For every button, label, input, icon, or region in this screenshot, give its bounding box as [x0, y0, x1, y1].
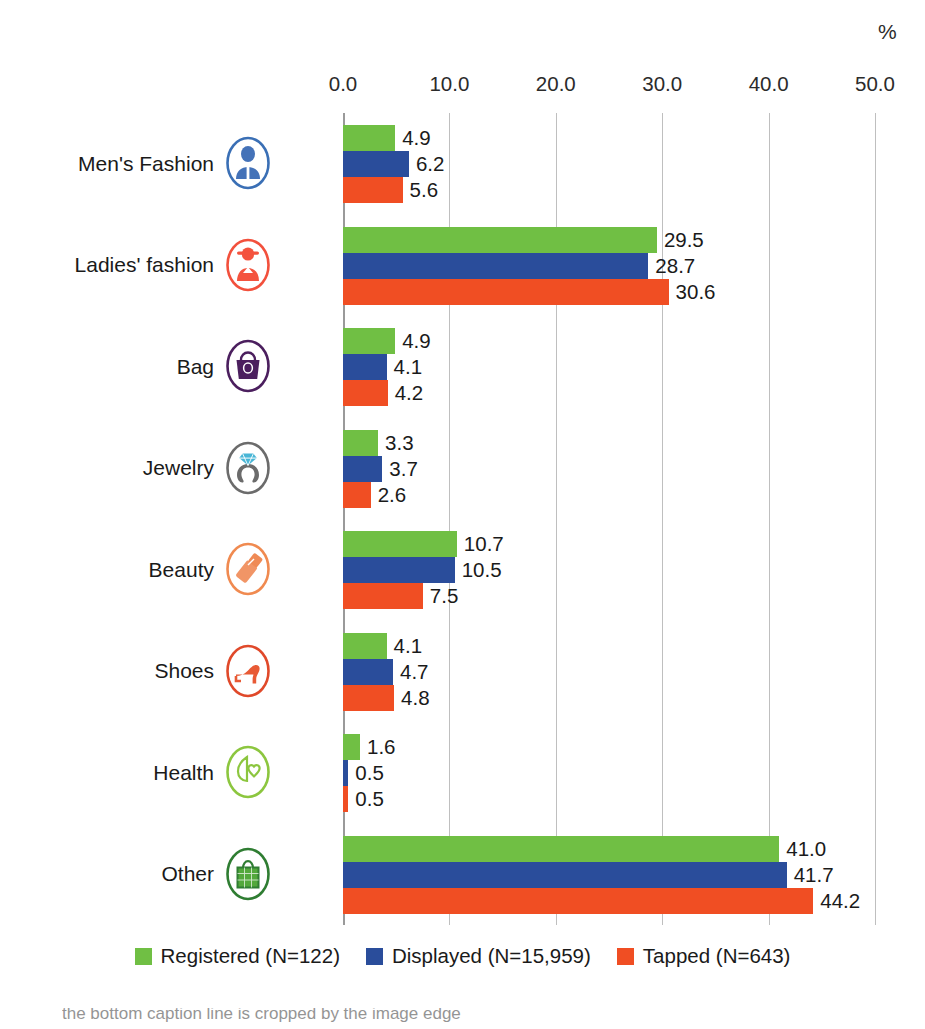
legend-item-displayed[interactable]: Displayed (N=15,959) — [366, 944, 591, 968]
bar-row: 2.6 — [343, 482, 875, 508]
bar-value-label: 3.3 — [378, 430, 414, 454]
bar-value-label: 28.7 — [648, 253, 695, 277]
bar-tapped[interactable] — [343, 177, 403, 203]
bar-row: 5.6 — [343, 177, 875, 203]
bar-value-label: 41.7 — [787, 862, 834, 886]
jewelry-icon — [224, 440, 272, 496]
bar-value-label: 0.5 — [348, 787, 384, 811]
bar-displayed[interactable] — [343, 253, 648, 279]
category-label: Shoes — [154, 660, 214, 681]
bar-row: 29.5 — [343, 227, 875, 253]
legend-item-tapped[interactable]: Tapped (N=643) — [617, 944, 791, 968]
bar-value-label: 5.6 — [403, 178, 439, 202]
plot-area: 4.96.25.629.528.730.64.94.14.23.33.72.61… — [343, 113, 875, 925]
bar-group: 10.710.57.5 — [343, 531, 875, 609]
other-icon — [224, 846, 272, 902]
bar-tapped[interactable] — [343, 279, 669, 305]
x-axis-tick: 10.0 — [429, 72, 469, 96]
shoes-icon — [224, 643, 272, 699]
bar-group: 4.14.74.8 — [343, 633, 875, 711]
bar-registered[interactable] — [343, 734, 360, 760]
ladies-fashion-icon — [224, 237, 272, 293]
bar-registered[interactable] — [343, 328, 395, 354]
category-entry: Men's Fashion — [0, 124, 343, 202]
gridline — [875, 113, 876, 925]
bar-registered[interactable] — [343, 836, 779, 862]
bar-group: 41.041.744.2 — [343, 836, 875, 914]
bar-value-label: 10.5 — [455, 558, 502, 582]
category-axis: Men's Fashion Ladies' fashion Bag Jewelr… — [0, 113, 343, 925]
bar-value-label: 4.9 — [395, 329, 431, 353]
axis-unit-label: % — [878, 20, 897, 44]
category-entry: Shoes — [0, 632, 343, 710]
legend-label: Displayed (N=15,959) — [392, 944, 591, 968]
bar-row: 0.5 — [343, 760, 875, 786]
x-axis-tick: 40.0 — [749, 72, 789, 96]
category-entry: Ladies' fashion — [0, 226, 343, 304]
bar-row: 41.7 — [343, 862, 875, 888]
bar-row: 3.7 — [343, 456, 875, 482]
category-label: Health — [153, 762, 214, 783]
category-entry: Beauty — [0, 530, 343, 608]
bar-row: 44.2 — [343, 888, 875, 914]
category-label: Ladies' fashion — [75, 254, 214, 275]
x-axis-tick: 0.0 — [329, 72, 358, 96]
legend-item-registered[interactable]: Registered (N=122) — [135, 944, 340, 968]
legend-swatch-tapped — [617, 948, 634, 965]
x-axis-tick: 20.0 — [536, 72, 576, 96]
bar-tapped[interactable] — [343, 685, 394, 711]
category-label: Jewelry — [143, 457, 214, 478]
bar-value-label: 41.0 — [779, 836, 826, 860]
bar-value-label: 4.9 — [395, 126, 431, 150]
bar-row: 4.7 — [343, 659, 875, 685]
legend-label: Tapped (N=643) — [643, 944, 791, 968]
bar-value-label: 7.5 — [423, 584, 459, 608]
bar-displayed[interactable] — [343, 659, 393, 685]
bar-row: 6.2 — [343, 151, 875, 177]
bar-displayed[interactable] — [343, 557, 455, 583]
bar-row: 7.5 — [343, 583, 875, 609]
bar-registered[interactable] — [343, 227, 657, 253]
bar-row: 4.8 — [343, 685, 875, 711]
bar-row: 30.6 — [343, 279, 875, 305]
bar-tapped[interactable] — [343, 888, 813, 914]
bar-value-label: 1.6 — [360, 735, 396, 759]
category-entry: Health — [0, 733, 343, 811]
category-label: Beauty — [149, 559, 214, 580]
bar-registered[interactable] — [343, 633, 387, 659]
x-axis-tick: 50.0 — [855, 72, 895, 96]
bar-registered[interactable] — [343, 125, 395, 151]
bar-row: 4.1 — [343, 354, 875, 380]
bar-displayed[interactable] — [343, 354, 387, 380]
bag-icon — [224, 338, 272, 394]
chart-legend: Registered (N=122)Displayed (N=15,959)Ta… — [0, 944, 925, 968]
bar-value-label: 2.6 — [371, 482, 407, 506]
bar-value-label: 4.1 — [387, 355, 423, 379]
bar-tapped[interactable] — [343, 482, 371, 508]
bar-value-label: 4.7 — [393, 659, 429, 683]
health-icon — [224, 744, 272, 800]
legend-swatch-registered — [135, 948, 152, 965]
bar-row: 4.9 — [343, 328, 875, 354]
bar-group: 1.60.50.5 — [343, 734, 875, 812]
bar-tapped[interactable] — [343, 380, 388, 406]
bar-value-label: 4.1 — [387, 633, 423, 657]
beauty-icon — [224, 541, 272, 597]
bar-registered[interactable] — [343, 531, 457, 557]
category-entry: Bag — [0, 327, 343, 405]
bar-registered[interactable] — [343, 430, 378, 456]
bar-value-label: 44.2 — [813, 888, 860, 912]
bar-value-label: 4.8 — [394, 685, 430, 709]
bar-row: 3.3 — [343, 430, 875, 456]
bar-row: 1.6 — [343, 734, 875, 760]
bar-tapped[interactable] — [343, 583, 423, 609]
bar-value-label: 0.5 — [348, 761, 384, 785]
bars-layer: 4.96.25.629.528.730.64.94.14.23.33.72.61… — [343, 113, 875, 925]
bar-displayed[interactable] — [343, 862, 787, 888]
category-label: Men's Fashion — [78, 153, 214, 174]
bar-group: 4.94.14.2 — [343, 328, 875, 406]
bar-displayed[interactable] — [343, 151, 409, 177]
bar-displayed[interactable] — [343, 456, 382, 482]
category-entry: Jewelry — [0, 429, 343, 507]
x-axis-tick: 30.0 — [642, 72, 682, 96]
